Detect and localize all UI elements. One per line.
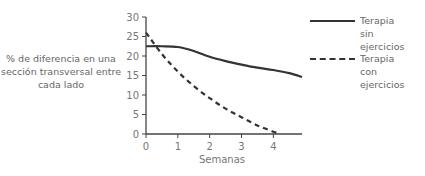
dashed-line-swatch-icon	[310, 58, 355, 60]
y-tick-label: 30	[126, 12, 139, 23]
y-tick-label: 25	[126, 31, 139, 42]
x-axis-label: Semanas	[199, 154, 245, 165]
axes	[142, 17, 302, 138]
y-tick-label: 5	[133, 109, 139, 120]
series-con-ejercicios	[146, 33, 280, 134]
x-tick-label: 2	[206, 141, 212, 152]
y-tick-label: 20	[126, 51, 139, 62]
y-tick-label: 15	[126, 70, 139, 81]
solid-line-swatch-icon	[310, 20, 355, 22]
y-tick-label: 0	[133, 129, 139, 140]
legend-label-line: ejercicios	[360, 78, 405, 91]
legend-label-line: Terapia sin	[360, 14, 405, 40]
x-tick-label: 0	[143, 141, 149, 152]
x-tick-label: 4	[270, 141, 276, 152]
x-tick-label: 3	[238, 141, 244, 152]
tick-labels: 05101520253001234	[126, 12, 276, 153]
data-lines	[146, 33, 302, 134]
legend-label-line: Terapia con	[360, 52, 405, 78]
y-tick-label: 10	[126, 90, 139, 101]
x-tick-label: 1	[175, 141, 181, 152]
